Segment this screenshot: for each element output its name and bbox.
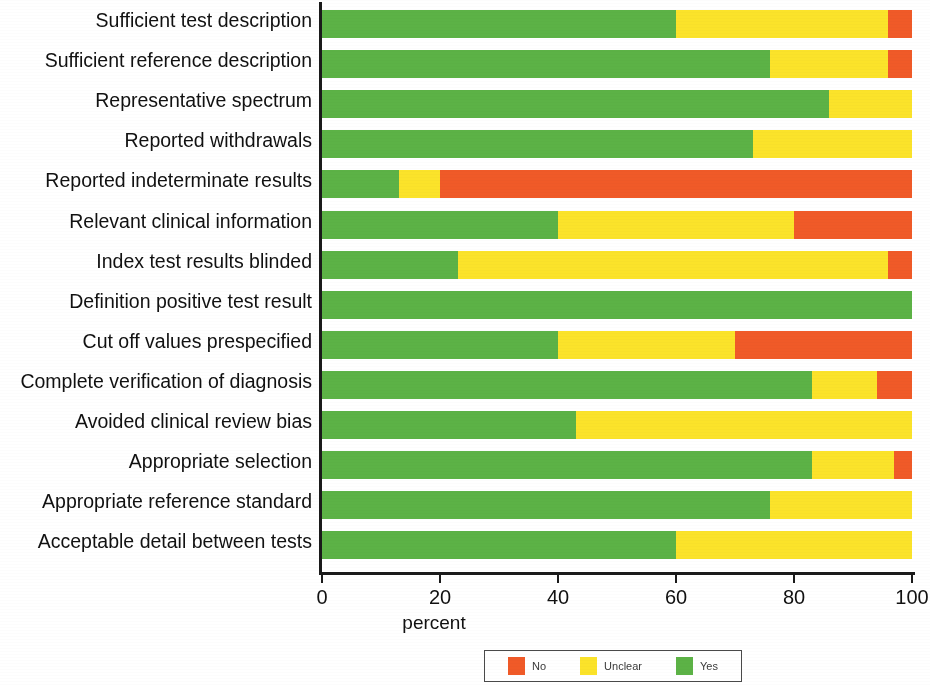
- category-label: Cut off values prespecified: [0, 327, 312, 355]
- bar-segment-yes: [322, 411, 576, 439]
- x-axis-tick: [793, 575, 795, 583]
- bar-segment-unclear: [558, 211, 794, 239]
- x-axis-title-text: percent: [402, 612, 465, 633]
- legend-item: Yes: [676, 657, 718, 675]
- category-label: Sufficient test description: [0, 6, 312, 34]
- x-axis-tick: [557, 575, 559, 583]
- bar-row: [322, 211, 912, 239]
- stacked-bar-chart: Sufficient test descriptionSufficient re…: [0, 0, 930, 685]
- legend-label: Unclear: [604, 660, 642, 672]
- bar-row: [322, 371, 912, 399]
- bar-segment-no: [794, 211, 912, 239]
- category-label: Representative spectrum: [0, 86, 312, 114]
- x-axis-tick: [321, 575, 323, 583]
- bar-row: [322, 331, 912, 359]
- bar-segment-unclear: [676, 10, 888, 38]
- x-axis-tick: [675, 575, 677, 583]
- bar-segment-yes: [322, 50, 770, 78]
- bar-row: [322, 10, 912, 38]
- bar-segment-yes: [322, 531, 676, 559]
- x-axis-tick: [911, 575, 913, 583]
- bar-segment-yes: [322, 331, 558, 359]
- category-label: Appropriate reference standard: [0, 487, 312, 515]
- x-axis-tick-label: 40: [547, 586, 569, 609]
- bar-segment-unclear: [576, 411, 912, 439]
- x-axis-tick-label: 0: [316, 586, 327, 609]
- bar-row: [322, 50, 912, 78]
- bar-segment-yes: [322, 211, 558, 239]
- legend-label: No: [532, 660, 546, 672]
- x-axis-tick: [439, 575, 441, 583]
- category-label: Reported withdrawals: [0, 126, 312, 154]
- bar-segment-unclear: [829, 90, 912, 118]
- legend-swatch-unclear: [580, 657, 597, 675]
- bar-segment-yes: [322, 491, 770, 519]
- bar-segment-unclear: [676, 531, 912, 559]
- bar-segment-unclear: [458, 251, 889, 279]
- bar-row: [322, 491, 912, 519]
- bar-segment-no: [888, 50, 912, 78]
- x-axis-tick-label: 100: [895, 586, 928, 609]
- bar-segment-no: [877, 371, 912, 399]
- x-axis-tick-label: 60: [665, 586, 687, 609]
- category-label: Relevant clinical information: [0, 207, 312, 235]
- bar-segment-no: [735, 331, 912, 359]
- category-label: Complete verification of diagnosis: [0, 367, 312, 395]
- category-label: Acceptable detail between tests: [0, 527, 312, 555]
- y-axis-line: [319, 2, 322, 572]
- bar-row: [322, 291, 912, 319]
- bar-segment-unclear: [812, 371, 877, 399]
- legend-swatch-no: [508, 657, 525, 675]
- category-label: Definition positive test result: [0, 287, 312, 315]
- bar-segment-unclear: [558, 331, 735, 359]
- bar-segment-yes: [322, 451, 812, 479]
- category-label: Reported indeterminate results: [0, 166, 312, 194]
- legend-label: Yes: [700, 660, 718, 672]
- category-label: Avoided clinical review bias: [0, 407, 312, 435]
- bar-segment-yes: [322, 291, 912, 319]
- bar-segment-unclear: [399, 170, 440, 198]
- bar-segment-unclear: [812, 451, 895, 479]
- bar-segment-unclear: [753, 130, 912, 158]
- legend-item: No: [508, 657, 546, 675]
- legend-item: Unclear: [580, 657, 642, 675]
- bar-row: [322, 531, 912, 559]
- bar-segment-yes: [322, 371, 812, 399]
- bar-segment-yes: [322, 170, 399, 198]
- category-label: Sufficient reference description: [0, 46, 312, 74]
- bar-row: [322, 411, 912, 439]
- bar-row: [322, 251, 912, 279]
- bar-row: [322, 170, 912, 198]
- x-axis-tick-label: 20: [429, 586, 451, 609]
- bar-row: [322, 90, 912, 118]
- x-axis-line: [319, 572, 915, 575]
- chart-legend: NoUnclearYes: [484, 650, 742, 682]
- bar-row: [322, 130, 912, 158]
- bar-segment-no: [888, 10, 912, 38]
- bar-segment-no: [440, 170, 912, 198]
- bar-row: [322, 451, 912, 479]
- category-label: Index test results blinded: [0, 247, 312, 275]
- bar-segment-yes: [322, 90, 829, 118]
- legend-swatch-yes: [676, 657, 693, 675]
- x-axis-tick-label: 80: [783, 586, 805, 609]
- bar-segment-no: [894, 451, 912, 479]
- bar-segment-yes: [322, 130, 753, 158]
- x-axis-title: percent: [0, 612, 930, 634]
- bar-segment-unclear: [770, 50, 888, 78]
- bar-segment-no: [888, 251, 912, 279]
- category-label: Appropriate selection: [0, 447, 312, 475]
- bar-segment-yes: [322, 10, 676, 38]
- bar-segment-yes: [322, 251, 458, 279]
- bar-segment-unclear: [770, 491, 912, 519]
